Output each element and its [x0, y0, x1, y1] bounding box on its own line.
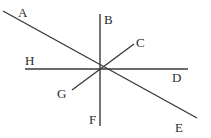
geometry-diagram: A B C D E F G H — [0, 0, 211, 138]
label-E: E — [175, 121, 183, 134]
label-H: H — [25, 54, 34, 67]
line-CG — [72, 44, 134, 90]
label-B: B — [104, 13, 113, 26]
label-G: G — [57, 87, 66, 100]
label-C: C — [136, 36, 145, 49]
label-D: D — [172, 71, 181, 84]
lines-group — [3, 11, 197, 126]
label-F: F — [89, 113, 96, 126]
label-A: A — [18, 6, 27, 19]
